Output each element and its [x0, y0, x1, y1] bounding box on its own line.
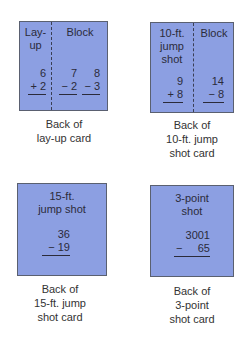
problem-subtraction: 8 − 3	[82, 67, 100, 95]
section-lay-up: Lay- up	[20, 22, 51, 110]
addend-bottom-row: + 2	[28, 80, 46, 95]
minus-sign: −	[176, 242, 182, 254]
plus-sign: +	[30, 80, 36, 92]
problem-addition: 9 + 8	[163, 75, 183, 103]
caption-line: shot card	[10, 310, 110, 324]
problem-subtraction: 36 − 19	[42, 228, 70, 256]
caption-line: Back of	[142, 118, 242, 132]
subtrahend: 3	[94, 80, 100, 92]
problem-subtraction: 7 − 2	[59, 67, 77, 95]
addend-bottom-row: + 8	[163, 88, 183, 103]
section-block: Block	[52, 22, 108, 110]
subtrahend-row: − 8	[203, 88, 224, 103]
caption-3-point-shot: Back of 3-point shot card	[142, 284, 242, 326]
subtrahend-row: − 65	[174, 242, 210, 257]
heading-3-point-shot: 3-point shot	[151, 192, 233, 218]
caption-line: lay-up card	[14, 131, 114, 145]
subtrahend-row: − 3	[82, 80, 100, 95]
heading-line: shot	[151, 205, 233, 218]
caption-line: Back of	[10, 282, 110, 296]
caption-15-ft-jump-shot: Back of 15-ft. jump shot card	[10, 282, 110, 324]
heading-10-ft-jump-shot: 10-ft. jump shot	[151, 27, 193, 66]
plus-sign: +	[167, 88, 173, 100]
card-3-point-shot: 3-point shot 3001 − 65	[150, 185, 234, 277]
heading-block: Block	[194, 27, 234, 40]
heading-line: 10-ft.	[151, 27, 193, 40]
subtrahend: 2	[71, 80, 77, 92]
heading-line: Block	[52, 26, 108, 39]
heading-line: up	[20, 39, 51, 52]
minuend: 36	[42, 228, 70, 241]
subtrahend: 19	[58, 241, 70, 253]
addend-top: 9	[163, 75, 183, 88]
caption-line: shot card	[142, 312, 242, 326]
subtrahend-row: − 2	[59, 80, 77, 95]
heading-line: 3-point	[151, 192, 233, 205]
minuend: 7	[59, 67, 77, 80]
heading-15-ft-jump-shot: 15-ft. jump shot	[18, 190, 106, 216]
heading-lay-up: Lay- up	[20, 26, 51, 52]
minus-sign: −	[48, 241, 54, 253]
addend-bottom: 8	[177, 88, 183, 100]
problem-subtraction: 14 − 8	[203, 75, 224, 103]
minuend: 3001	[174, 229, 210, 242]
heading-line: Lay-	[20, 26, 51, 39]
heading-line: shot	[151, 53, 193, 66]
caption-line: 10-ft. jump	[142, 132, 242, 146]
addend-bottom: 2	[40, 80, 46, 92]
heading-block: Block	[52, 26, 108, 39]
subtrahend-row: − 19	[42, 241, 70, 256]
addend-top: 6	[28, 67, 46, 80]
caption-lay-up: Back of lay-up card	[14, 117, 114, 145]
caption-line: Back of	[14, 117, 114, 131]
minus-sign: −	[61, 80, 67, 92]
caption-10-ft-jump-shot: Back of 10-ft. jump shot card	[142, 118, 242, 160]
caption-line: 15-ft. jump	[10, 296, 110, 310]
heading-line: jump	[151, 40, 193, 53]
problem-addition: 6 + 2	[28, 67, 46, 95]
card-lay-up: Lay- up Block 6 + 2 7 − 2 8 − 3	[19, 21, 108, 111]
heading-line: 15-ft.	[18, 190, 106, 203]
card-15-ft-jump-shot: 15-ft. jump shot 36 − 19	[17, 183, 107, 276]
heading-line: jump shot	[18, 203, 106, 216]
minuend: 14	[203, 75, 224, 88]
minuend: 8	[82, 67, 100, 80]
minus-sign: −	[208, 88, 214, 100]
caption-line: Back of	[142, 284, 242, 298]
subtrahend: 8	[218, 88, 224, 100]
caption-line: 3-point	[142, 298, 242, 312]
minus-sign: −	[84, 80, 90, 92]
card-10-ft-jump-shot: 10-ft. jump shot Block 9 + 8 14 − 8	[150, 22, 234, 113]
caption-line: shot card	[142, 146, 242, 160]
heading-line: Block	[194, 27, 234, 40]
subtrahend: 65	[198, 242, 210, 254]
problem-subtraction: 3001 − 65	[174, 229, 210, 257]
